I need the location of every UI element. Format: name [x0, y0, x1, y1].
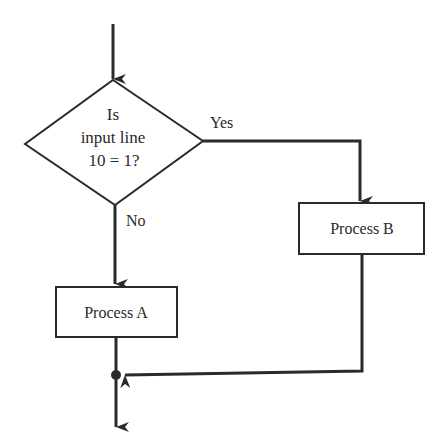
yes-connector — [203, 141, 360, 201]
process-a-label: Process A — [84, 304, 148, 321]
decision-text-line3: 10 = 1? — [88, 151, 139, 170]
no-label: No — [126, 212, 146, 229]
flowchart-diagram: Is input line 10 = 1? Yes Process B No P… — [0, 0, 448, 446]
yes-label: Yes — [210, 114, 233, 131]
decision-text-line1: Is — [107, 105, 119, 124]
process-b-label: Process B — [330, 220, 394, 237]
decision-text-line2: input line — [81, 128, 146, 147]
